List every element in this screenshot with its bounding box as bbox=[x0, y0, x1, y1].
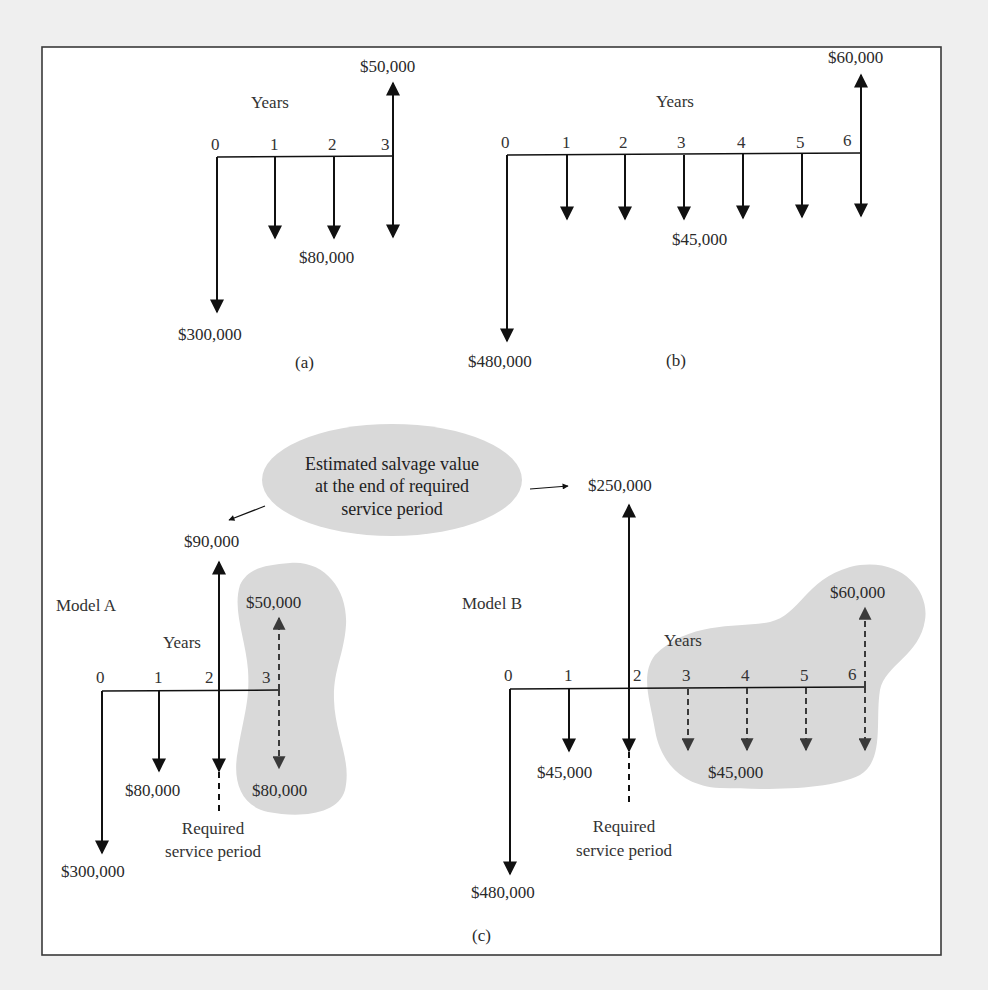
axis-label-years: Years bbox=[251, 93, 289, 112]
excluded-annual-cost: $80,000 bbox=[252, 781, 307, 800]
tick-3: 3 bbox=[262, 668, 271, 687]
caption-c: (c) bbox=[472, 926, 491, 945]
tick-0: 0 bbox=[501, 133, 510, 152]
figure-canvas: Years 0 1 2 3 $50,000 $80,000 $300,000 (… bbox=[0, 0, 988, 990]
salvage-value-year-2: $250,000 bbox=[588, 476, 652, 495]
callout-line-2: at the end of required bbox=[315, 476, 469, 496]
tick-5: 5 bbox=[796, 133, 805, 152]
tick-2: 2 bbox=[205, 668, 214, 687]
tick-2: 2 bbox=[633, 666, 642, 685]
model-b-title: Model B bbox=[462, 594, 522, 613]
service-period-label-1: Required bbox=[182, 819, 245, 838]
excluded-salvage-value: $50,000 bbox=[246, 593, 301, 612]
annual-cost: $80,000 bbox=[125, 781, 180, 800]
tick-3: 3 bbox=[677, 133, 686, 152]
initial-cost: $300,000 bbox=[178, 325, 242, 344]
excluded-annual-cost: $45,000 bbox=[708, 763, 763, 782]
tick-6: 6 bbox=[848, 665, 857, 684]
time-axis bbox=[217, 156, 393, 157]
salvage-value: $50,000 bbox=[360, 57, 415, 76]
caption-a: (a) bbox=[295, 353, 314, 372]
salvage-value: $60,000 bbox=[828, 48, 883, 67]
tick-2: 2 bbox=[619, 133, 628, 152]
salvage-value-year-2: $90,000 bbox=[184, 532, 239, 551]
tick-3: 3 bbox=[381, 135, 390, 154]
tick-4: 4 bbox=[741, 666, 750, 685]
model-a-title: Model A bbox=[56, 596, 117, 615]
tick-0: 0 bbox=[211, 135, 220, 154]
tick-0: 0 bbox=[96, 668, 105, 687]
axis-label-years: Years bbox=[163, 633, 201, 652]
tick-6: 6 bbox=[843, 131, 852, 150]
initial-cost: $480,000 bbox=[468, 352, 532, 371]
tick-4: 4 bbox=[737, 133, 746, 152]
initial-cost: $300,000 bbox=[61, 862, 125, 881]
axis-label-years: Years bbox=[664, 631, 702, 650]
caption-b: (b) bbox=[666, 351, 686, 370]
callout-line-1: Estimated salvage value bbox=[305, 454, 479, 474]
tick-5: 5 bbox=[800, 666, 809, 685]
annual-cost: $45,000 bbox=[672, 230, 727, 249]
service-period-label-2: service period bbox=[576, 841, 672, 860]
annual-cost: $45,000 bbox=[537, 763, 592, 782]
cash-flow-figure: Years 0 1 2 3 $50,000 $80,000 $300,000 (… bbox=[0, 0, 988, 990]
tick-1: 1 bbox=[154, 668, 163, 687]
initial-cost: $480,000 bbox=[471, 883, 535, 902]
tick-2: 2 bbox=[328, 135, 337, 154]
service-period-label-1: Required bbox=[593, 817, 656, 836]
tick-1: 1 bbox=[564, 666, 573, 685]
time-axis bbox=[102, 690, 279, 691]
service-period-label-2: service period bbox=[165, 842, 261, 861]
tick-1: 1 bbox=[270, 135, 279, 154]
annual-cost: $80,000 bbox=[299, 248, 354, 267]
excluded-salvage-value: $60,000 bbox=[830, 583, 885, 602]
tick-0: 0 bbox=[504, 666, 513, 685]
tick-1: 1 bbox=[562, 133, 571, 152]
callout-line-3: service period bbox=[341, 499, 442, 519]
axis-label-years: Years bbox=[656, 92, 694, 111]
tick-3: 3 bbox=[682, 666, 691, 685]
